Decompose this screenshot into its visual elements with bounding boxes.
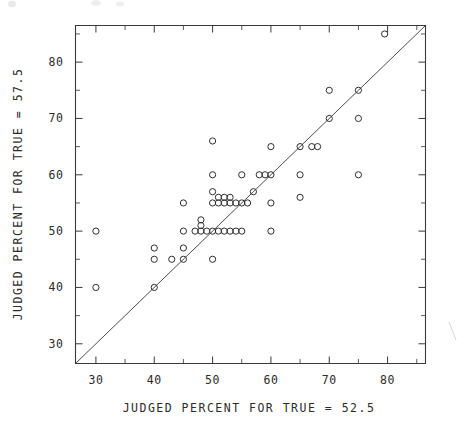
data-point: [209, 172, 215, 178]
data-point: [169, 256, 175, 262]
data-point: [233, 228, 239, 234]
data-point: [239, 228, 245, 234]
x-axis-tick-labels: 304050607080: [88, 373, 395, 387]
data-point: [93, 284, 99, 290]
scatter-plot-figure: 304050607080 304050607080 JUDGED PERCENT…: [0, 0, 471, 435]
y-axis-tick-labels: 304050607080: [48, 55, 63, 351]
data-point: [268, 200, 274, 206]
y-tick-label: 30: [48, 337, 63, 351]
x-axis-major-ticks: [96, 26, 388, 364]
data-point: [256, 172, 262, 178]
data-point: [209, 200, 215, 206]
data-point: [215, 228, 221, 234]
data-point: [297, 194, 303, 200]
data-point: [268, 144, 274, 150]
plot-canvas: 304050607080 304050607080 JUDGED PERCENT…: [0, 0, 471, 435]
y-axis-title: JUDGED PERCENT FOR TRUE = 57.5: [11, 68, 25, 321]
y-tick-label: 60: [48, 168, 63, 182]
identity-reference-line: [76, 26, 426, 364]
x-tick-label: 30: [88, 373, 103, 387]
x-tick-label: 70: [322, 373, 337, 387]
data-point: [262, 172, 268, 178]
data-point: [355, 115, 361, 121]
data-point: [239, 172, 245, 178]
data-point: [233, 200, 239, 206]
data-point: [192, 228, 198, 234]
x-tick-label: 60: [263, 373, 278, 387]
data-point: [268, 228, 274, 234]
data-point: [204, 228, 210, 234]
x-axis-title: JUDGED PERCENT FOR TRUE = 52.5: [123, 401, 376, 415]
data-point: [309, 144, 315, 150]
x-tick-label: 50: [205, 373, 220, 387]
y-tick-label: 40: [48, 280, 63, 294]
data-point: [326, 87, 332, 93]
x-tick-label: 40: [147, 373, 162, 387]
data-point: [93, 228, 99, 234]
y-tick-label: 50: [48, 224, 63, 238]
data-point: [382, 31, 388, 37]
data-point: [151, 245, 157, 251]
y-tick-label: 70: [48, 111, 63, 125]
data-point: [314, 144, 320, 150]
data-point: [221, 228, 227, 234]
data-point: [227, 228, 233, 234]
y-tick-label: 80: [48, 55, 63, 69]
data-point-series: [93, 31, 388, 291]
data-point: [209, 256, 215, 262]
data-point: [180, 245, 186, 251]
data-point: [244, 200, 250, 206]
x-tick-label: 80: [380, 373, 395, 387]
data-point: [209, 138, 215, 144]
data-point: [180, 228, 186, 234]
data-point: [297, 172, 303, 178]
data-point: [180, 200, 186, 206]
data-point: [355, 172, 361, 178]
data-point: [209, 189, 215, 195]
data-point: [151, 256, 157, 262]
